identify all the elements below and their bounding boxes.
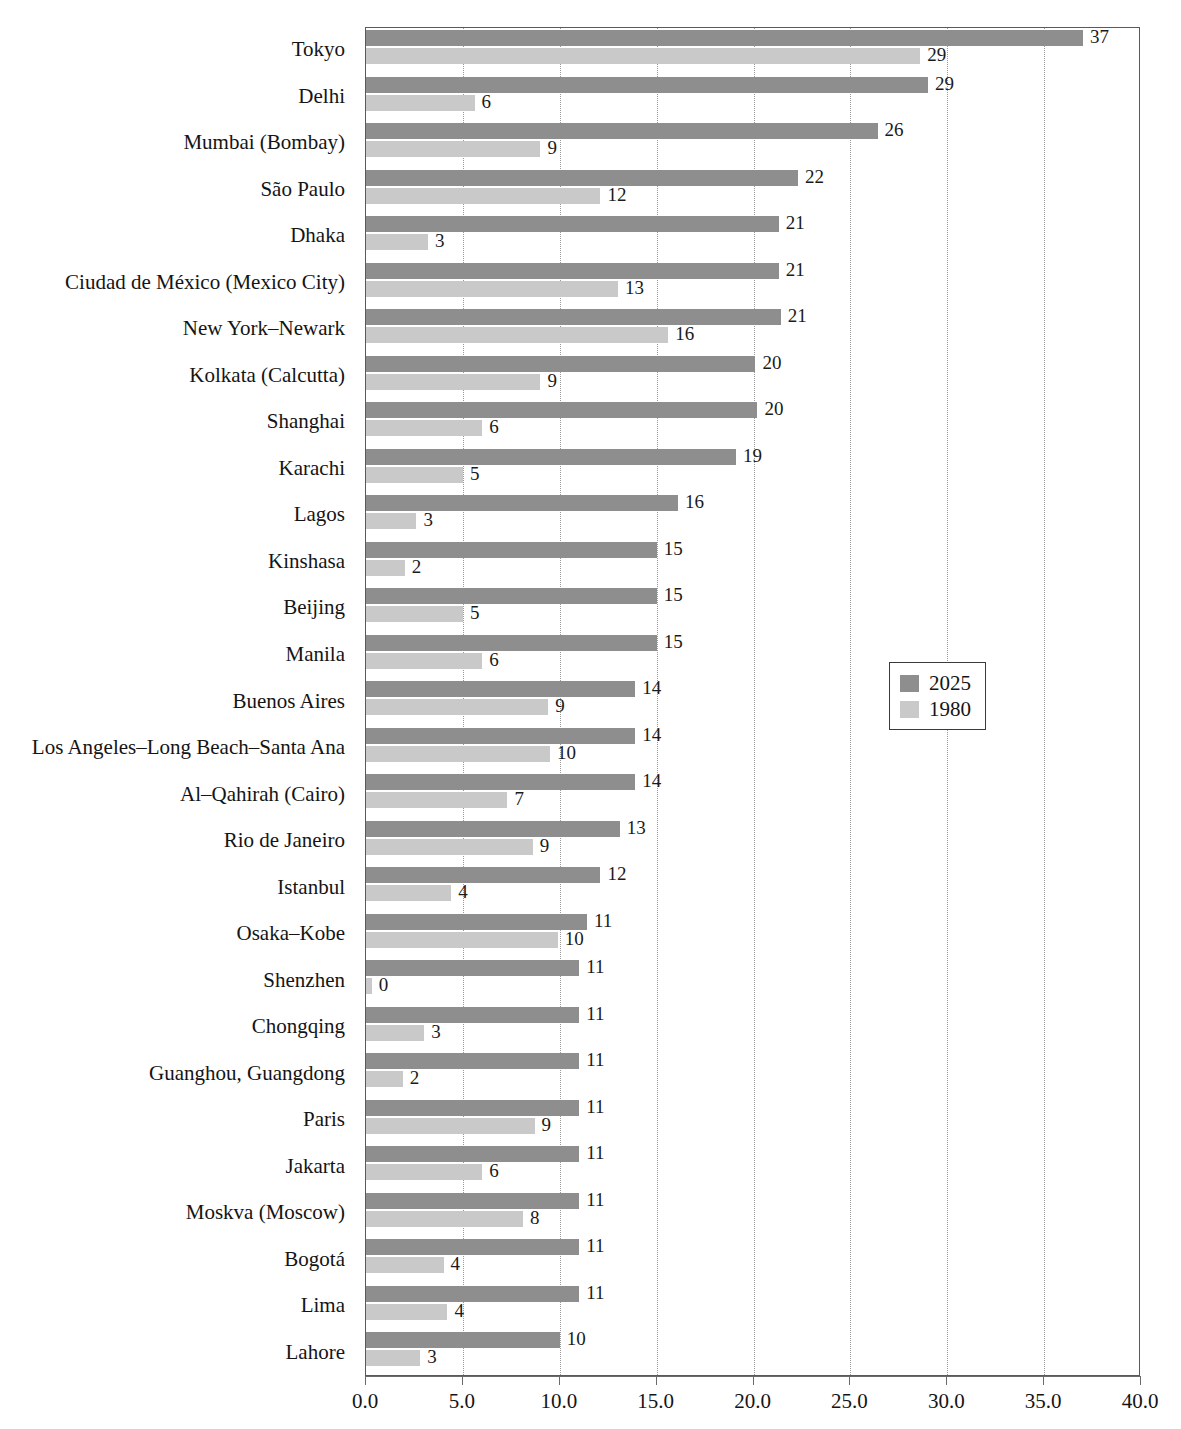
bar-value-label: 11	[579, 1238, 604, 1254]
axis-tick-label: 35.0	[1025, 1389, 1062, 1414]
bar-value-label: 13	[620, 820, 646, 836]
bar-2025	[366, 170, 798, 186]
bar-value-label: 11	[579, 959, 604, 975]
axis-tick	[1043, 1376, 1044, 1385]
bar-2025	[366, 1239, 579, 1255]
bar-1980	[366, 48, 920, 64]
bar-1980	[366, 1025, 424, 1041]
category-label: Osaka–Kobe	[237, 921, 345, 945]
bar-value-label: 11	[579, 1006, 604, 1022]
bar-value-label: 15	[657, 587, 683, 603]
bar-value-label: 9	[540, 140, 557, 156]
bar-2025	[366, 495, 678, 511]
bar-value-label: 6	[482, 419, 499, 435]
bar-1980	[366, 885, 451, 901]
bar-value-label: 12	[600, 187, 626, 203]
plot-area: 3729296269221221321132116209206195163152…	[365, 27, 1140, 1376]
bar-value-label: 12	[600, 866, 626, 882]
bar-1980	[366, 699, 548, 715]
bar-value-label: 13	[618, 280, 644, 296]
bar-2025	[366, 123, 878, 139]
bar-2025	[366, 402, 757, 418]
category-label: Delhi	[298, 84, 345, 108]
bar-row: 147	[366, 772, 1139, 819]
bar-2025	[366, 821, 620, 837]
bar-1980	[366, 95, 475, 111]
category-label: Ciudad de México (Mexico City)	[65, 270, 345, 294]
bar-2025	[366, 914, 587, 930]
bar-value-label: 6	[482, 1163, 499, 1179]
bar-value-label: 16	[668, 326, 694, 342]
category-label: Shenzhen	[263, 968, 345, 992]
bar-2025	[366, 960, 579, 976]
legend-item-1980: 1980	[900, 696, 971, 722]
bar-2025	[366, 263, 779, 279]
bar-1980	[366, 606, 463, 622]
axis-tick-label: 30.0	[928, 1389, 965, 1414]
bar-value-label: 4	[444, 1256, 461, 1272]
bar-1980	[366, 792, 507, 808]
bar-1980	[366, 839, 533, 855]
category-label: Karachi	[279, 456, 345, 480]
bar-value-label: 5	[463, 466, 480, 482]
bar-1980	[366, 560, 405, 576]
bar-row: 155	[366, 586, 1139, 633]
bar-value-label: 2	[405, 559, 422, 575]
category-label: Istanbul	[277, 875, 345, 899]
bar-2025	[366, 309, 781, 325]
bar-value-label: 10	[558, 931, 584, 947]
bar-2025	[366, 77, 928, 93]
bar-row: 2212	[366, 168, 1139, 215]
axis-tick-label: 20.0	[734, 1389, 771, 1414]
axis-tick	[1140, 1376, 1141, 1385]
bar-row: 112	[366, 1051, 1139, 1098]
bar-2025	[366, 542, 657, 558]
category-label: Tokyo	[292, 37, 345, 61]
bar-2025	[366, 1193, 579, 1209]
bar-1980	[366, 141, 540, 157]
bar-value-label: 22	[798, 169, 824, 185]
category-label: Rio de Janeiro	[224, 828, 345, 852]
bar-value-label: 4	[451, 884, 468, 900]
bar-2025	[366, 1286, 579, 1302]
bar-1980	[366, 420, 482, 436]
axis-tick-label: 0.0	[352, 1389, 378, 1414]
bar-value-label: 9	[535, 1117, 552, 1133]
bar-2025	[366, 1332, 560, 1348]
bar-row: 114	[366, 1237, 1139, 1284]
bar-value-label: 7	[507, 791, 524, 807]
category-label: Moskva (Moscow)	[186, 1200, 345, 1224]
bar-1980	[366, 1257, 444, 1273]
bar-row: 103	[366, 1330, 1139, 1377]
bar-rows: 3729296269221221321132116209206195163152…	[366, 28, 1139, 1375]
bar-value-label: 21	[779, 262, 805, 278]
bar-value-label: 11	[579, 1052, 604, 1068]
axis-tick	[946, 1376, 947, 1385]
category-label: Los Angeles–Long Beach–Santa Ana	[32, 735, 345, 759]
bar-value-label: 9	[540, 373, 557, 389]
bar-value-label: 29	[928, 76, 954, 92]
bar-row: 213	[366, 214, 1139, 261]
category-label: Buenos Aires	[232, 689, 345, 713]
legend-label-2025: 2025	[929, 673, 971, 694]
category-label: Kinshasa	[268, 549, 345, 573]
bar-row: 195	[366, 447, 1139, 494]
bar-value-label: 14	[635, 680, 661, 696]
bar-value-label: 10	[560, 1331, 586, 1347]
value-axis: 0.05.010.015.020.025.030.035.040.0	[365, 1376, 1140, 1426]
bar-2025	[366, 449, 736, 465]
bar-2025	[366, 1007, 579, 1023]
bar-value-label: 14	[635, 773, 661, 789]
bar-row: 139	[366, 819, 1139, 866]
bar-value-label: 20	[755, 355, 781, 371]
category-label: Manila	[286, 642, 345, 666]
bar-value-label: 8	[523, 1210, 540, 1226]
category-label: Dhaka	[290, 223, 345, 247]
bar-row: 116	[366, 1144, 1139, 1191]
bar-value-label: 14	[635, 727, 661, 743]
bar-2025	[366, 635, 657, 651]
bar-2025	[366, 588, 657, 604]
bar-1980	[366, 513, 416, 529]
bar-row: 113	[366, 1005, 1139, 1052]
bar-value-label: 21	[781, 308, 807, 324]
